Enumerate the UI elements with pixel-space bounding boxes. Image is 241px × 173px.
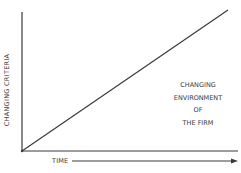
annotation-line: CHANGING	[158, 79, 238, 92]
time-arrow-head-icon	[231, 159, 238, 164]
annotation-line: ENVIRONMENT	[158, 92, 238, 105]
x-axis-label: TIME	[52, 157, 68, 165]
criteria-vs-time-diagram: CHANGING CRITERIA TIME CHANGING ENVIRONM…	[0, 0, 241, 173]
origin-point	[21, 150, 23, 152]
annotation-line: OF	[158, 104, 238, 117]
y-axis-label-text: CHANGING CRITERIA	[3, 54, 11, 127]
y-axis-label: CHANGING CRITERIA	[0, 40, 14, 140]
annotation-line: THE FIRM	[158, 117, 238, 130]
changing-environment-annotation: CHANGING ENVIRONMENT OF THE FIRM	[158, 79, 238, 129]
